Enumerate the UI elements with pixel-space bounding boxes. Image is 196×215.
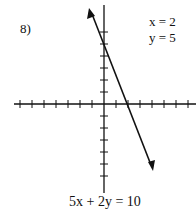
solution-x: x = 2	[149, 14, 176, 29]
equation-label: 5x + 2y = 10	[69, 194, 141, 209]
problem-number: 8)	[20, 21, 31, 36]
equation-line	[92, 14, 151, 165]
solution-y: y = 5	[149, 30, 176, 45]
